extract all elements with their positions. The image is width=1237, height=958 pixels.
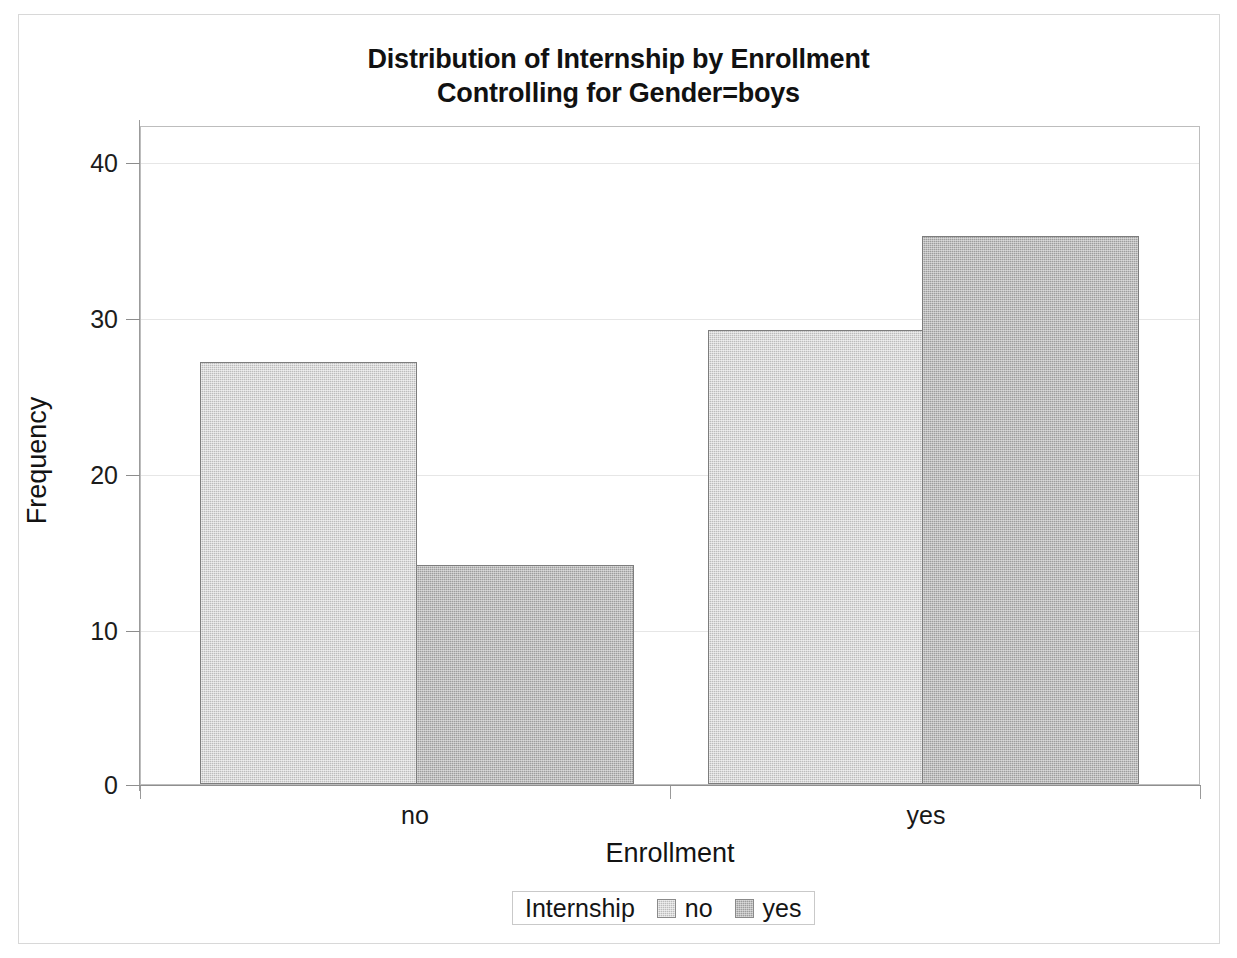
y-tick-label-0: 0 [58, 773, 118, 798]
y-tick-mark-30 [126, 319, 140, 320]
legend-label-yes: yes [763, 896, 802, 921]
x-tick-label-no: no [325, 800, 505, 830]
plot-surface [141, 127, 1199, 784]
legend-title: Internship [525, 896, 635, 921]
y-tick-label-30: 30 [58, 307, 118, 332]
y-tick-mark-20 [126, 475, 140, 476]
x-tick-label-yes: yes [836, 800, 1016, 830]
x-tick-mark-left [140, 786, 141, 799]
legend-entry-yes[interactable]: yes [735, 896, 802, 921]
y-tick-mark-40 [126, 163, 140, 164]
y-axis-title: Frequency [22, 361, 53, 561]
y-tick-mark-10 [126, 631, 140, 632]
bar-enrollment-no-internship-no[interactable] [200, 362, 417, 784]
bar-enrollment-no-internship-yes[interactable] [416, 565, 634, 784]
x-tick-mark-middle [670, 786, 671, 799]
y-tick-label-10: 10 [58, 619, 118, 644]
x-axis-line [128, 785, 1201, 786]
legend-entry-no[interactable]: no [657, 896, 713, 921]
bar-enrollment-yes-internship-no[interactable] [708, 330, 923, 784]
y-tick-label-group: 0 10 20 30 40 [52, 0, 118, 958]
legend-swatch-yes-icon [735, 899, 754, 918]
legend-label-no: no [685, 896, 713, 921]
x-axis-title: Enrollment [140, 838, 1200, 869]
x-tick-mark-right [1200, 786, 1201, 799]
plot-area [140, 126, 1200, 785]
chart-page: Distribution of Internship by Enrollment… [0, 0, 1237, 958]
bar-enrollment-yes-internship-yes[interactable] [922, 236, 1139, 784]
chart-title: Distribution of Internship by Enrollment… [0, 42, 1237, 110]
y-tick-label-20: 20 [58, 463, 118, 488]
gridline-40 [141, 163, 1199, 164]
chart-title-line2: Controlling for Gender=boys [0, 76, 1237, 110]
legend-swatch-no-icon [657, 899, 676, 918]
chart-title-line1: Distribution of Internship by Enrollment [368, 44, 870, 74]
y-tick-label-40: 40 [58, 151, 118, 176]
legend: Internship no yes [512, 891, 815, 925]
